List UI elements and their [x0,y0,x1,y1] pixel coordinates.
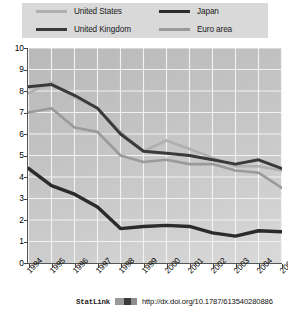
legend-label-united-states: United States [74,7,122,16]
legend-label-japan: Japan [197,7,219,16]
series-line-euro-area [29,108,282,188]
y-axis-tick-label: 1 [2,237,24,245]
y-axis-tick-mark [24,113,28,114]
chart-line-plot [28,48,282,263]
chart-legend: United States Japan United Kingdom Euro … [22,3,268,38]
y-axis-tick-mark [24,156,28,157]
legend-swatch-united-states [36,10,67,13]
statlink-block: StatLinkhttp://dx.doi.org/10.1787/613540… [76,297,273,306]
y-axis-tick-label: 0 [2,259,24,267]
x-axis-tick-mark [144,264,145,268]
legend-swatch-united-kingdom [36,28,67,31]
legend-item-euro-area: Euro area [145,25,268,34]
y-axis-tick-mark [24,177,28,178]
y-axis-tick-label: 6 [2,130,24,138]
statlink-barcode-icon [115,298,137,305]
legend-label-united-kingdom: United Kingdom [74,25,131,34]
x-axis-tick-mark [213,264,214,268]
y-axis-tick-mark [24,48,28,49]
x-axis-tick-mark [236,264,237,268]
y-axis-tick-label: 9 [2,65,24,73]
y-axis-tick-label: 8 [2,87,24,95]
x-axis-tick-mark [259,264,260,268]
y-axis-tick-label: 10 [2,44,24,52]
x-axis-tick-mark [282,264,283,268]
legend-item-japan: Japan [145,7,268,16]
series-line-japan [29,168,282,236]
chart-footer: StatLinkhttp://dx.doi.org/10.1787/613540… [0,294,288,308]
y-axis-tick-mark [24,91,28,92]
y-axis-tick-mark [24,134,28,135]
statlink-url[interactable]: http://dx.doi.org/10.1787/613540280886 [142,297,273,306]
legend-label-euro-area: Euro area [197,25,232,34]
x-axis-tick-mark [190,264,191,268]
legend-item-united-kingdom: United Kingdom [22,25,145,34]
x-axis-tick-mark [167,264,168,268]
x-axis-tick-mark [75,264,76,268]
x-axis-tick-mark [98,264,99,268]
y-axis-tick-label: 2 [2,216,24,224]
statlink-label: StatLink [76,298,110,306]
y-axis-tick-mark [24,70,28,71]
chart-page: United States Japan United Kingdom Euro … [0,0,288,312]
legend-swatch-euro-area [159,28,190,31]
y-axis-tick-label: 7 [2,108,24,116]
x-axis-tick-mark [121,264,122,268]
y-axis-tick-mark [24,242,28,243]
y-axis-tick-label: 3 [2,194,24,202]
y-axis-tick-mark [24,220,28,221]
y-axis-tick-label: 5 [2,151,24,159]
y-axis-tick-mark [24,199,28,200]
x-axis-tick-mark [52,264,53,268]
y-axis-tick-mark [24,263,28,264]
legend-swatch-japan [159,10,190,13]
y-axis-tick-label: 4 [2,173,24,181]
chart-plot-area [28,48,282,263]
series-line-united-states [29,82,282,170]
x-axis-tick-mark [29,264,30,268]
legend-item-united-states: United States [22,7,145,16]
